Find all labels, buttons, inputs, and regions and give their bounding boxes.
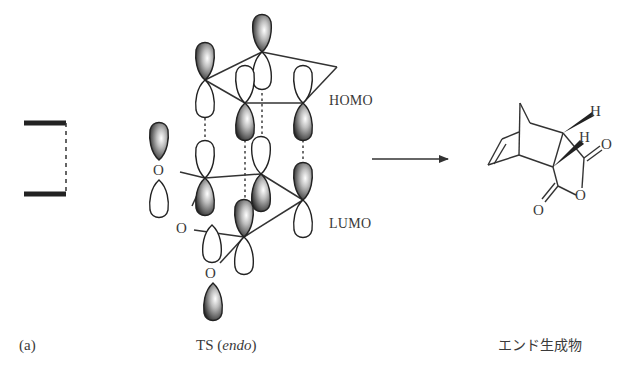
- ts-caption: TS (endo): [196, 338, 256, 353]
- homo-label: HOMO: [329, 94, 373, 108]
- oxygen-label: O: [153, 163, 164, 178]
- hydrogen-label: H: [579, 130, 590, 145]
- bond-bracket-symbol: [24, 123, 66, 194]
- lumo-label: LUMO: [329, 217, 371, 231]
- panel-label: (a): [19, 338, 36, 353]
- ts-caption-paren-close: ): [251, 337, 256, 353]
- oxygen-label: O: [176, 221, 187, 236]
- oxygen-label: O: [601, 137, 612, 152]
- oxygen-label: O: [575, 188, 586, 203]
- ts-caption-endo: endo: [222, 337, 251, 353]
- homo-orbital-lobes: [196, 15, 313, 141]
- ts-caption-prefix: TS: [196, 337, 214, 353]
- lumo-orbital-lobes: [150, 123, 313, 321]
- oxygen-label: O: [533, 203, 544, 218]
- diagram-canvas: [0, 0, 633, 373]
- hydrogen-label: H: [590, 104, 601, 119]
- oxygen-label: O: [205, 266, 216, 281]
- product-caption: エンド生成物: [498, 338, 582, 352]
